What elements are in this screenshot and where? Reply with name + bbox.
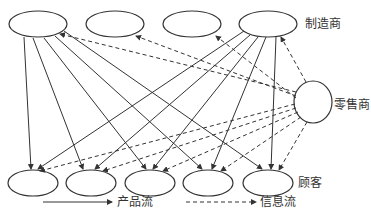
manufacturer-label: 制造商 <box>305 17 341 31</box>
manufacturer-node-3 <box>163 11 221 37</box>
retailer-label: 零售商 <box>334 98 370 112</box>
customer-node-2 <box>66 170 116 196</box>
customer-node-4 <box>183 170 233 196</box>
product-flow-edges-m4 <box>38 31 276 169</box>
customer-node-3 <box>125 170 175 196</box>
customer-node-5 <box>243 170 293 196</box>
manufacturer-node-2 <box>86 11 144 37</box>
retailer-node <box>294 81 332 123</box>
manufacturer-node-1 <box>9 11 67 37</box>
product-flow-edges-m1 <box>24 31 262 169</box>
legend-info-flow-label: 信息流 <box>260 195 296 209</box>
legend-product-flow-label: 产品流 <box>117 195 153 209</box>
customer-node-1 <box>8 170 58 196</box>
customer-nodes <box>8 170 293 196</box>
manufacturer-node-4 <box>239 11 297 37</box>
info-flow-edges <box>40 34 307 171</box>
manufacturer-nodes <box>9 11 297 37</box>
customer-label: 顾客 <box>298 176 322 190</box>
